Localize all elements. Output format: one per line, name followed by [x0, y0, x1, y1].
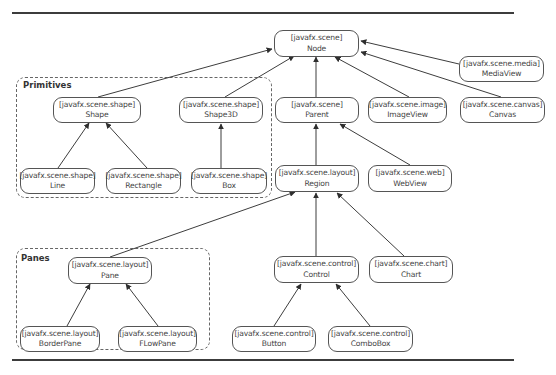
control-package: [javafx.scene.control] — [277, 259, 356, 270]
webview-name: WebView — [393, 179, 427, 190]
flowpane-name: FLowPane — [139, 339, 176, 350]
class-borderpane[interactable]: [javafx.scene.layout] BorderPane — [20, 326, 100, 352]
class-line[interactable]: [javafx.scene.shape] Line — [20, 168, 95, 194]
class-shape[interactable]: [javafx.scene.shape] Shape — [53, 97, 141, 123]
region-package: [javafx.scene.layout] — [279, 168, 356, 179]
class-control[interactable]: [javafx.scene.control] Control — [274, 256, 359, 283]
shape3d-package: [javafx.scene.shape] — [183, 100, 259, 111]
button-name: Button — [262, 339, 287, 350]
class-chart[interactable]: [javafx.scene.chart] Chart — [369, 256, 453, 283]
class-mediaview[interactable]: [javafx.scene.media] MediaView — [459, 56, 544, 82]
box-package: [javafx.scene.shape] — [191, 171, 267, 182]
shape-package: [javafx.scene.shape] — [59, 100, 135, 111]
class-rectangle[interactable]: [javafx.scene.shape] Rectangle — [106, 168, 181, 194]
class-canvas[interactable]: [javafx.scene.canvas] Canvas — [460, 97, 545, 123]
class-imageview[interactable]: [javafx.scene.image] ImageView — [368, 97, 447, 123]
canvas-name: Canvas — [489, 110, 516, 121]
shape3d-name: Shape3D — [204, 110, 237, 121]
button-package: [javafx.scene.control] — [234, 329, 313, 340]
rectangle-name: Rectangle — [125, 181, 161, 192]
shape-name: Shape — [85, 110, 108, 121]
combobox-package: [javafx.scene.control] — [331, 329, 410, 340]
class-button[interactable]: [javafx.scene.control] Button — [232, 326, 316, 352]
class-node[interactable]: [javafx.scene] Node — [274, 30, 359, 57]
class-region[interactable]: [javafx.scene.layout] Region — [275, 165, 359, 192]
webview-package: [javafx.scene.web] — [375, 168, 444, 179]
flowpane-package: [javafx.scene.layout] — [119, 329, 196, 340]
region-name: Region — [304, 179, 329, 190]
mediaview-name: MediaView — [482, 69, 521, 80]
class-shape3d[interactable]: [javafx.scene.shape] Shape3D — [179, 97, 263, 123]
parent-package: [javafx.scene] — [291, 100, 343, 111]
class-webview[interactable]: [javafx.scene.web] WebView — [368, 165, 452, 192]
chart-package: [javafx.scene.chart] — [375, 259, 448, 270]
rectangle-package: [javafx.scene.shape] — [105, 171, 181, 182]
imageview-package: [javafx.scene.image] — [369, 100, 446, 111]
control-name: Control — [303, 270, 329, 281]
class-box[interactable]: [javafx.scene.shape] Box — [191, 168, 267, 194]
class-pane[interactable]: [javafx.scene.layout] Pane — [68, 257, 152, 284]
mediaview-package: [javafx.scene.media] — [463, 59, 540, 70]
pane-name: Pane — [101, 271, 119, 282]
class-parent[interactable]: [javafx.scene] Parent — [275, 97, 359, 123]
parent-name: Parent — [305, 110, 328, 121]
borderpane-name: BorderPane — [39, 339, 81, 350]
line-package: [javafx.scene.shape] — [19, 171, 95, 182]
combobox-name: ComboBox — [351, 339, 391, 350]
chart-name: Chart — [401, 270, 421, 281]
node-name: Node — [307, 44, 326, 55]
borderpane-package: [javafx.scene.layout] — [22, 329, 99, 340]
imageview-name: ImageView — [387, 110, 427, 121]
line-name: Line — [50, 181, 65, 192]
class-combobox[interactable]: [javafx.scene.control] ComboBox — [328, 326, 413, 352]
canvas-package: [javafx.scene.canvas] — [463, 100, 543, 111]
box-name: Box — [222, 181, 236, 192]
class-flowpane[interactable]: [javafx.scene.layout] FLowPane — [118, 326, 197, 352]
node-package: [javafx.scene] — [291, 33, 343, 44]
pane-package: [javafx.scene.layout] — [72, 260, 149, 271]
